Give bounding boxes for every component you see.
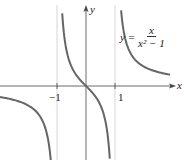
x-axis-label: x bbox=[177, 79, 182, 91]
formula-label: y = x x² − 1 bbox=[120, 24, 165, 49]
y-axis-label: y bbox=[90, 3, 95, 15]
formula-fraction: x x² − 1 bbox=[138, 24, 165, 49]
formula-denominator: x² − 1 bbox=[138, 37, 165, 49]
plot: y x −1 1 y = x x² − 1 bbox=[0, 0, 184, 160]
formula-lhs: y = bbox=[120, 31, 135, 43]
formula-numerator: x bbox=[147, 24, 156, 37]
tick-label-pos1: 1 bbox=[118, 91, 124, 103]
tick-label-neg1: −1 bbox=[49, 91, 61, 103]
left-branch bbox=[0, 97, 52, 160]
